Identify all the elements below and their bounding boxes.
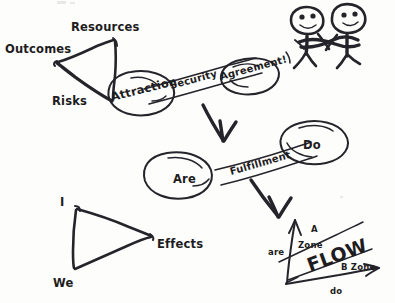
arrow-agreement-to-fulfillment bbox=[203, 105, 236, 141]
label-do: Do bbox=[303, 138, 321, 152]
sketch-drawing: Outcomes Resources Risks Attraction Secu… bbox=[0, 0, 395, 303]
label-resources: Resources bbox=[71, 20, 140, 34]
right-figure-eye-left bbox=[341, 12, 346, 17]
paper-texture bbox=[57, 1, 343, 250]
label-risks: Risks bbox=[52, 94, 87, 108]
label-axis-do: do bbox=[330, 286, 342, 296]
are-fulfillment-do-chain bbox=[144, 121, 348, 199]
label-axis-are: are bbox=[268, 247, 284, 257]
label-i: I bbox=[60, 195, 64, 209]
left-figure-eye-left bbox=[299, 14, 304, 19]
arrow-do-to-flow bbox=[251, 180, 291, 217]
label-we: We bbox=[53, 276, 73, 290]
left-figure-eye-right bbox=[310, 13, 315, 18]
effects-triangle-shape bbox=[73, 206, 153, 269]
label-zone-b: B Zone bbox=[341, 262, 375, 272]
label-effects: Effects bbox=[157, 237, 203, 251]
label-zone-a-line2: Zone bbox=[298, 240, 323, 250]
sketch-canvas: Outcomes Resources Risks Attraction Secu… bbox=[0, 0, 395, 303]
label-fulfillment: Fulfillment bbox=[229, 149, 292, 177]
label-zone-a-line1: A bbox=[311, 224, 318, 234]
label-outcomes: Outcomes bbox=[5, 42, 71, 56]
label-are: Are bbox=[173, 172, 196, 186]
handshake-figures-group bbox=[291, 4, 365, 68]
right-figure-eye-right bbox=[352, 11, 357, 16]
